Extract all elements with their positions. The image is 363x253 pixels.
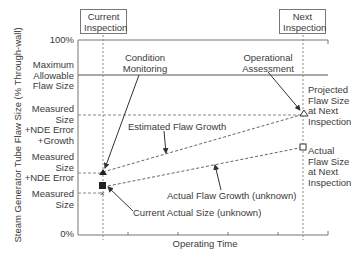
proj-line-1: Projected [308, 85, 351, 96]
level-mn-line-1: Measured [20, 152, 74, 163]
level-m-line-2: Size [20, 200, 74, 211]
level-mng-line-4: +Growth [20, 136, 74, 147]
level-m-label: Measured Size [20, 189, 74, 210]
operational-assessment-arrow [268, 72, 300, 110]
next-inspection-box: Next Inspection [279, 9, 326, 34]
proj-line-3: at Next [308, 106, 351, 117]
next-inspection-label-1: Next [283, 12, 322, 23]
level-max-line-1: Maximum [20, 60, 74, 71]
oa-line-1: Operational [236, 53, 300, 64]
actual-line-1: Actual [308, 146, 351, 157]
current-inspection-box: Current Inspection [80, 9, 127, 34]
actual-growth-label: Actual Flaw Growth (unknown) [167, 191, 296, 202]
cm-line-2: Monitoring [115, 64, 175, 75]
current-actual-size-label: Current Actual Size (unknown) [133, 208, 261, 219]
y-tick-100: 100% [30, 35, 74, 46]
open-square-marker [300, 144, 306, 150]
x-marker: × [100, 189, 105, 198]
oa-line-2: Assessment [236, 64, 300, 75]
level-max-line-3: Flaw Size [20, 81, 74, 92]
projected-flaw-size-label: Projected Flaw Size at Next Inspection [308, 85, 351, 127]
level-m-line-1: Measured [20, 189, 74, 200]
current-inspection-label-2: Inspection [84, 23, 123, 34]
cm-line-1: Condition [115, 53, 175, 64]
level-mng-line-1: Measured [20, 104, 74, 115]
x-axis-title: Operating Time [150, 239, 260, 250]
y-tick-0: 0% [30, 229, 74, 240]
level-mng-line-3: +NDE Error [20, 125, 74, 136]
level-mng-label: Measured Size +NDE Error +Growth [20, 104, 74, 146]
level-mn-label: Measured Size +NDE Error [20, 152, 74, 184]
current-actual-arrow [108, 187, 133, 211]
current-inspection-label-1: Current [84, 12, 123, 23]
estimated-growth-arrow [164, 131, 166, 153]
triangle-marker [99, 169, 107, 175]
level-max-label: Maximum Allowable Flaw Size [20, 60, 74, 92]
actual-growth-line [103, 147, 304, 187]
actual-flaw-size-label: Actual Flaw Size at Next Inspection [308, 146, 351, 188]
open-triangle-marker [300, 110, 308, 116]
actual-line-4: Inspection [308, 178, 351, 189]
proj-line-4: Inspection [308, 117, 351, 128]
operational-assessment-label: Operational Assessment [236, 53, 300, 74]
actual-line-3: at Next [308, 167, 351, 178]
next-inspection-label-2: Inspection [283, 23, 322, 34]
actual-growth-arrow [215, 165, 221, 190]
condition-monitoring-label: Condition Monitoring [115, 53, 175, 74]
estimated-growth-label: Estimated Flaw Growth [128, 122, 226, 133]
level-mn-line-3: +NDE Error [20, 173, 74, 184]
y-axis-title: Steam Generator Tube Flaw Size (% Throug… [12, 33, 23, 243]
square-marker [99, 182, 106, 189]
